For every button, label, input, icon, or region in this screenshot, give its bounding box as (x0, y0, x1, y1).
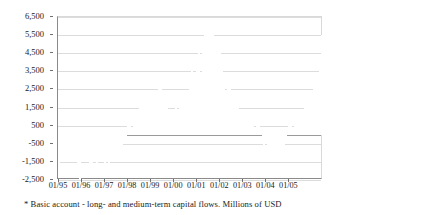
y-tick-mark (50, 52, 53, 53)
y-tick-label: -2,500 (22, 175, 44, 184)
y-tick-label: -1,500 (22, 156, 44, 165)
bar (285, 135, 287, 141)
x-tick-label: 01/99 (141, 181, 160, 190)
y-tick-mark (50, 107, 53, 108)
x-tick-label: 01/04 (256, 181, 275, 190)
footnote: * Basic account - long- and medium-term … (24, 199, 282, 209)
figure: 6,5005,5004,5003,5002,5001,500500-500-1,… (0, 0, 436, 215)
y-tick-mark (50, 125, 53, 126)
y-tick-mark (50, 161, 53, 162)
y-tick-mark (50, 179, 53, 180)
plot-area (57, 16, 322, 179)
x-tick-label: 01/97 (95, 181, 114, 190)
x-tick-label: 01/95 (49, 181, 68, 190)
x-tick-label: 01/02 (210, 181, 229, 190)
x-tick-label: 01/03 (233, 181, 252, 190)
x-tick-label: 01/05 (279, 181, 298, 190)
x-tick-label: 01/01 (187, 181, 206, 190)
bar (125, 135, 127, 141)
x-tick-label: 01/98 (118, 181, 137, 190)
y-tick-label: 6,500 (25, 12, 44, 21)
y-tick-label: -500 (28, 138, 44, 147)
y-tick-mark (50, 70, 53, 71)
y-axis: 6,5005,5004,5003,5002,5001,500500-500-1,… (0, 16, 53, 179)
y-tick-label: 1,500 (25, 102, 44, 111)
y-tick-mark (50, 143, 53, 144)
y-tick-label: 4,500 (25, 48, 44, 57)
bar (321, 35, 323, 135)
y-tick-label: 2,500 (25, 84, 44, 93)
y-tick-mark (50, 88, 53, 89)
bar-series (58, 17, 321, 178)
x-axis: 01/9501/9601/9701/9801/9901/0001/0101/02… (57, 181, 322, 193)
x-tick-label: 01/00 (164, 181, 183, 190)
y-tick-mark (50, 16, 53, 17)
y-tick-label: 5,500 (25, 30, 44, 39)
y-tick-label: 3,500 (25, 66, 44, 75)
x-tick-label: 01/96 (72, 181, 91, 190)
y-tick-mark (50, 34, 53, 35)
y-tick-label: 500 (31, 120, 44, 129)
